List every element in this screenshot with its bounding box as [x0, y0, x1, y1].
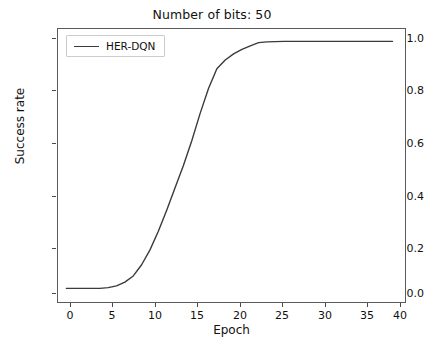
- legend-line-icon: [74, 46, 99, 47]
- x-tick-mark: [325, 303, 326, 307]
- x-tick-label: 0: [50, 309, 90, 322]
- legend-label: HER-DQN: [106, 40, 155, 52]
- x-tick-label: 10: [135, 309, 175, 322]
- x-tick-label: 35: [347, 309, 387, 322]
- x-tick-mark: [240, 303, 241, 307]
- y-tick-mark: [52, 90, 56, 91]
- chart-legend: HER-DQN: [66, 35, 165, 57]
- x-tick-mark: [197, 303, 198, 307]
- x-tick-label: 40: [380, 309, 420, 322]
- chart-figure: Number of bits: 50 Success rate Epoch 1.…: [0, 0, 424, 351]
- x-tick-mark: [155, 303, 156, 307]
- x-tick-mark: [367, 303, 368, 307]
- series-line-her-dqn: [66, 41, 392, 288]
- x-tick-label: 5: [92, 309, 132, 322]
- x-tick-mark: [112, 303, 113, 307]
- x-tick-mark: [282, 303, 283, 307]
- y-tick-mark: [52, 143, 56, 144]
- y-tick-mark: [52, 196, 56, 197]
- x-tick-label: 15: [177, 309, 217, 322]
- data-line-svg: [58, 29, 405, 302]
- y-tick-mark: [52, 248, 56, 249]
- x-tick-label: 30: [305, 309, 345, 322]
- x-axis-label: Epoch: [57, 323, 406, 337]
- plot-axes: HER-DQN: [57, 28, 406, 303]
- y-tick-mark: [52, 293, 56, 294]
- y-tick-mark: [52, 38, 56, 39]
- x-tick-mark: [70, 303, 71, 307]
- x-tick-label: 25: [262, 309, 302, 322]
- x-tick-label: 20: [220, 309, 260, 322]
- x-tick-mark: [400, 303, 401, 307]
- y-axis-label: Success rate: [13, 36, 27, 216]
- chart-title: Number of bits: 50: [0, 7, 424, 22]
